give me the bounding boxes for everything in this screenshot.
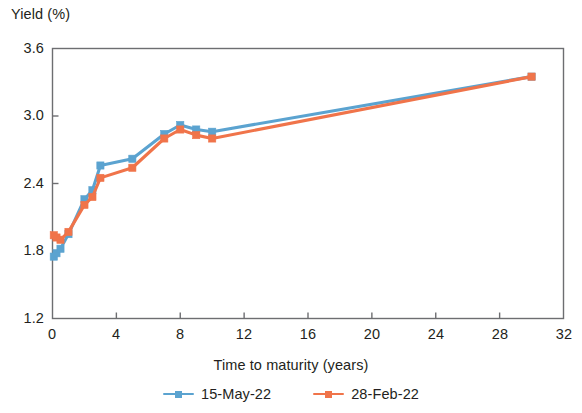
legend-item-1[interactable]: 28-Feb-22: [313, 386, 419, 402]
axis-frame: [53, 49, 564, 319]
axis-tick-marks: [53, 116, 500, 319]
plot-area: [0, 0, 582, 413]
legend-swatch-icon: [313, 388, 344, 400]
legend-item-label: 15-May-22: [201, 386, 271, 402]
x-axis-title: Time to maturity (years): [0, 357, 582, 373]
legend-item-label: 28-Feb-22: [351, 386, 419, 402]
legend-swatch-icon: [163, 388, 194, 400]
legend-item-0[interactable]: 15-May-22: [163, 386, 271, 402]
chart-legend: 15-May-22 28-Feb-22: [0, 386, 582, 402]
chart-figure: Yield (%) 3.6 3.0 2.4 1.8 1.2 0 4 8 12 1…: [0, 0, 582, 413]
data-series-layer: [50, 73, 535, 260]
